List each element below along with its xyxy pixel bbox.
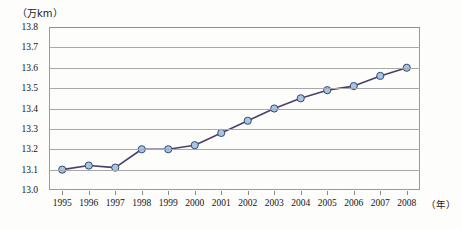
data-point-marker [218, 129, 225, 136]
data-series-layer [0, 0, 461, 229]
data-point-marker [297, 95, 304, 102]
gridline [49, 109, 420, 110]
data-point-marker [85, 162, 92, 169]
data-point-marker [191, 142, 198, 149]
gridline [49, 88, 420, 89]
gridline [49, 47, 420, 48]
x-axis-unit-label: （年） [426, 197, 456, 211]
gridline [49, 170, 420, 171]
gridline [49, 129, 420, 130]
data-point-marker [377, 72, 384, 79]
data-point-marker [244, 117, 251, 124]
gridline [49, 68, 420, 69]
gridline [49, 149, 420, 150]
line-chart: （万km） 13.813.713.613.513.413.313.213.113… [0, 0, 461, 229]
